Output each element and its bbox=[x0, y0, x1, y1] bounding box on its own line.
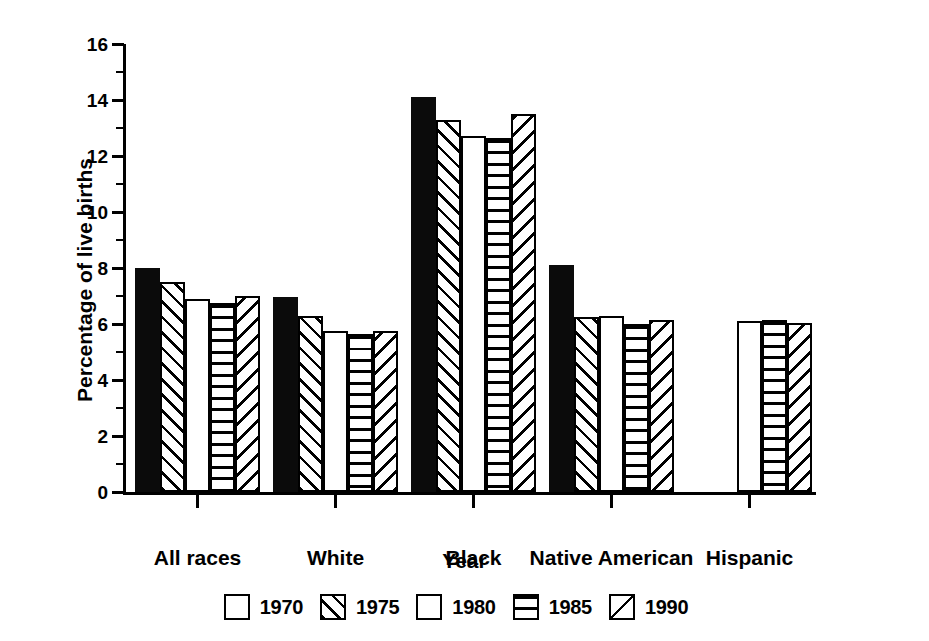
bar bbox=[348, 334, 373, 492]
chart-legend: 19701975198019851990 bbox=[0, 594, 929, 620]
y-tick-mark bbox=[112, 155, 124, 158]
legend-item: 1990 bbox=[609, 594, 688, 620]
y-axis-title: Percentage of live births bbox=[73, 60, 97, 500]
x-axis-line bbox=[123, 492, 816, 495]
bar-group bbox=[549, 44, 674, 492]
y-tick-minor bbox=[116, 351, 124, 353]
bar bbox=[461, 136, 486, 492]
plot-area: 0246810121416 All racesWhiteBlackNative … bbox=[126, 44, 816, 492]
x-tick-mark bbox=[610, 495, 613, 508]
y-tick-mark bbox=[112, 211, 124, 214]
y-tick-minor bbox=[116, 239, 124, 241]
bar-group bbox=[411, 44, 536, 492]
bar-chart-figure: Percentage of live births 0246810121416 … bbox=[0, 0, 929, 641]
y-tick-mark bbox=[112, 435, 124, 438]
x-tick-mark bbox=[196, 495, 199, 508]
y-tick-mark bbox=[112, 99, 124, 102]
solid-black-swatch bbox=[224, 594, 250, 620]
bar bbox=[436, 120, 461, 492]
diagonal-forward-swatch bbox=[320, 594, 346, 620]
diagonal-backward-swatch bbox=[609, 594, 635, 620]
bar bbox=[549, 265, 574, 492]
bar bbox=[373, 331, 398, 492]
bar bbox=[185, 299, 210, 492]
y-tick-label: 4 bbox=[97, 371, 108, 390]
y-tick-mark bbox=[112, 323, 124, 326]
bar bbox=[135, 268, 160, 492]
legend-item: 1970 bbox=[224, 594, 303, 620]
legend-item: 1975 bbox=[320, 594, 399, 620]
bar-group bbox=[135, 44, 260, 492]
y-tick-label: 0 bbox=[97, 483, 108, 502]
y-tick-minor bbox=[116, 127, 124, 129]
y-tick-label: 8 bbox=[97, 259, 108, 278]
horizontal-lines-swatch bbox=[513, 594, 539, 620]
bar-group bbox=[687, 44, 812, 492]
bar bbox=[323, 331, 348, 492]
x-tick-mark bbox=[334, 495, 337, 508]
y-tick-mark bbox=[112, 43, 124, 46]
bar bbox=[511, 114, 536, 492]
x-tick-mark bbox=[472, 495, 475, 508]
bar bbox=[624, 324, 649, 492]
bar bbox=[762, 320, 787, 492]
y-tick-label: 12 bbox=[87, 147, 108, 166]
x-axis-title: Year bbox=[0, 549, 929, 573]
bar bbox=[599, 316, 624, 492]
legend-label: 1980 bbox=[452, 596, 495, 619]
bar bbox=[273, 297, 298, 492]
y-tick-mark bbox=[112, 491, 124, 494]
bar-group bbox=[273, 44, 398, 492]
legend-label: 1990 bbox=[645, 596, 688, 619]
bar bbox=[649, 320, 674, 492]
legend-label: 1985 bbox=[549, 596, 592, 619]
y-tick-label: 6 bbox=[97, 315, 108, 334]
y-axis-line bbox=[123, 44, 126, 495]
bar bbox=[160, 282, 185, 492]
y-tick-minor bbox=[116, 71, 124, 73]
bar bbox=[486, 138, 511, 492]
bar bbox=[787, 323, 812, 492]
bar bbox=[574, 317, 599, 492]
bar bbox=[411, 97, 436, 492]
bar bbox=[737, 321, 762, 492]
legend-item: 1980 bbox=[416, 594, 495, 620]
legend-label: 1970 bbox=[260, 596, 303, 619]
y-tick-label: 16 bbox=[87, 35, 108, 54]
y-tick-label: 10 bbox=[87, 203, 108, 222]
bar bbox=[298, 316, 323, 492]
y-tick-minor bbox=[116, 295, 124, 297]
bar bbox=[235, 296, 260, 492]
y-tick-mark bbox=[112, 267, 124, 270]
x-tick-mark bbox=[748, 495, 751, 508]
legend-item: 1985 bbox=[513, 594, 592, 620]
y-tick-label: 14 bbox=[87, 91, 108, 110]
y-tick-mark bbox=[112, 379, 124, 382]
y-tick-minor bbox=[116, 183, 124, 185]
y-tick-minor bbox=[116, 463, 124, 465]
y-tick-minor bbox=[116, 407, 124, 409]
bar bbox=[210, 303, 235, 492]
y-tick-label: 2 bbox=[97, 427, 108, 446]
blank-white-swatch bbox=[416, 594, 442, 620]
legend-label: 1975 bbox=[356, 596, 399, 619]
